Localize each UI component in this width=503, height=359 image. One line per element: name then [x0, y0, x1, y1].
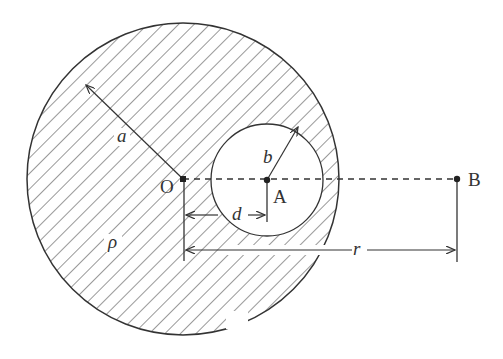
point-o: [180, 176, 186, 182]
point-b: [454, 176, 460, 182]
point-a: [264, 177, 270, 183]
label-r: r: [353, 238, 361, 259]
label-b-point: B: [468, 169, 481, 190]
label-d: d: [232, 203, 242, 224]
diagram: a b ρ O A B d r: [0, 0, 503, 359]
label-b: b: [263, 146, 273, 167]
label-r-bg: [226, 311, 248, 329]
label-a-point: A: [273, 186, 287, 207]
label-rho: ρ: [107, 231, 117, 252]
label-o: O: [160, 176, 174, 197]
label-a: a: [117, 125, 127, 146]
